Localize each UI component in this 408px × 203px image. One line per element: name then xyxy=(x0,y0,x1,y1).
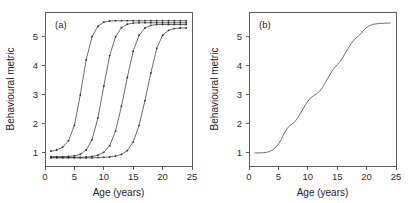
data-point-marker xyxy=(138,124,140,126)
x-tick-label: 5 xyxy=(276,171,281,182)
figure-container: 051015202512345(a)Age (years)Behavioural… xyxy=(0,0,408,203)
chart-panel-a: 051015202512345(a)Age (years)Behavioural… xyxy=(0,0,204,203)
x-tick-label: 15 xyxy=(128,171,139,182)
x-tick-label: 15 xyxy=(332,171,343,182)
y-tick-label: 5 xyxy=(33,31,38,42)
data-curve-cohort-2 xyxy=(51,23,186,157)
data-point-marker xyxy=(126,23,128,25)
data-point-marker xyxy=(85,59,87,61)
data-point-marker xyxy=(91,36,93,38)
data-point-marker xyxy=(156,20,158,22)
data-curve-cohort-3 xyxy=(51,24,186,157)
data-point-marker xyxy=(126,20,128,22)
data-point-marker xyxy=(121,153,123,155)
panel-tag: (b) xyxy=(259,19,271,30)
data-point-marker xyxy=(173,24,175,26)
data-point-marker xyxy=(179,20,181,22)
data-point-marker xyxy=(173,28,175,30)
data-point-marker xyxy=(103,156,105,158)
data-point-marker xyxy=(103,21,105,23)
x-tick-label: 0 xyxy=(42,171,47,182)
data-point-marker xyxy=(126,76,128,78)
data-point-marker xyxy=(162,34,164,36)
data-point-marker xyxy=(162,24,164,26)
data-point-marker xyxy=(173,20,175,22)
data-point-marker xyxy=(97,157,99,159)
x-tick-label: 10 xyxy=(303,171,314,182)
x-tick-label: 25 xyxy=(187,171,198,182)
data-point-marker xyxy=(115,155,117,157)
data-point-marker xyxy=(150,20,152,22)
data-point-marker xyxy=(50,150,52,152)
data-point-marker xyxy=(138,22,140,24)
y-tick-label: 3 xyxy=(33,89,38,100)
data-point-marker xyxy=(56,149,58,151)
y-tick-label: 4 xyxy=(237,60,242,71)
data-point-marker xyxy=(62,157,64,159)
data-point-marker xyxy=(109,20,111,22)
data-point-marker xyxy=(144,22,146,24)
data-point-marker xyxy=(168,29,170,31)
data-point-marker xyxy=(79,153,81,155)
data-point-marker xyxy=(144,27,146,29)
data-point-marker xyxy=(132,22,134,24)
y-tick-label: 5 xyxy=(237,31,242,42)
data-point-marker xyxy=(97,117,99,119)
data-point-marker xyxy=(68,157,70,159)
chart-panel-b: 051015202512345(b)Age (years)Behavioural… xyxy=(204,0,408,203)
data-point-marker xyxy=(103,85,105,87)
data-point-marker xyxy=(132,50,134,52)
data-point-marker xyxy=(185,22,187,24)
data-point-marker xyxy=(121,27,123,29)
y-tick-label: 4 xyxy=(33,60,38,71)
data-point-marker xyxy=(79,157,81,159)
data-point-marker xyxy=(150,24,152,26)
data-point-marker xyxy=(156,47,158,49)
data-point-marker xyxy=(156,22,158,24)
y-tick-label: 1 xyxy=(237,147,242,158)
y-axis-title: Behavioural metric xyxy=(209,48,220,131)
data-point-marker xyxy=(138,34,140,36)
data-point-marker xyxy=(85,149,87,151)
y-axis-title: Behavioural metric xyxy=(5,48,16,131)
y-tick-label: 2 xyxy=(33,118,38,129)
plot-frame xyxy=(45,12,192,166)
data-point-marker xyxy=(138,20,140,22)
data-point-marker xyxy=(185,20,187,22)
data-point-marker xyxy=(91,139,93,141)
data-point-marker xyxy=(126,150,128,152)
data-point-marker xyxy=(109,145,111,147)
data-point-marker xyxy=(132,20,134,22)
data-point-marker xyxy=(173,22,175,24)
data-point-marker xyxy=(156,24,158,26)
data-curve-population-average xyxy=(255,23,390,153)
y-tick-label: 1 xyxy=(33,147,38,158)
data-point-marker xyxy=(115,130,117,132)
data-point-marker xyxy=(150,72,152,74)
data-point-marker xyxy=(121,20,123,22)
data-point-marker xyxy=(74,124,76,126)
x-tick-label: 25 xyxy=(391,171,402,182)
data-point-marker xyxy=(103,151,105,153)
data-curve-cohort-4 xyxy=(51,28,186,158)
data-curve-cohort-1 xyxy=(51,21,186,151)
data-point-marker xyxy=(144,20,146,22)
data-point-marker xyxy=(115,36,117,38)
data-point-marker xyxy=(185,24,187,26)
data-point-marker xyxy=(179,24,181,26)
data-point-marker xyxy=(168,20,170,22)
data-point-marker xyxy=(179,27,181,29)
x-tick-label: 20 xyxy=(361,171,372,182)
data-point-marker xyxy=(150,22,152,24)
data-point-marker xyxy=(109,55,111,57)
data-point-marker xyxy=(85,157,87,159)
y-tick-label: 3 xyxy=(237,89,242,100)
data-point-marker xyxy=(68,140,70,142)
data-point-marker xyxy=(162,20,164,22)
data-point-marker xyxy=(132,141,134,143)
data-point-marker xyxy=(121,106,123,108)
data-point-marker xyxy=(179,22,181,24)
x-tick-label: 20 xyxy=(157,171,168,182)
data-point-marker xyxy=(79,94,81,96)
data-point-marker xyxy=(162,22,164,24)
